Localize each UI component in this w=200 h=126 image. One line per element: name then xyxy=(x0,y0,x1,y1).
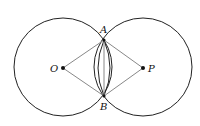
diagram-canvas: O P A B xyxy=(0,0,200,126)
point-b-dot xyxy=(103,95,106,98)
label-o: O xyxy=(50,63,58,74)
label-p: P xyxy=(147,63,155,74)
arc-right xyxy=(104,40,110,96)
point-o-dot xyxy=(61,66,65,70)
point-a-dot xyxy=(103,39,106,42)
label-b: B xyxy=(99,101,107,112)
point-p-dot xyxy=(141,66,145,70)
label-a: A xyxy=(99,24,107,35)
